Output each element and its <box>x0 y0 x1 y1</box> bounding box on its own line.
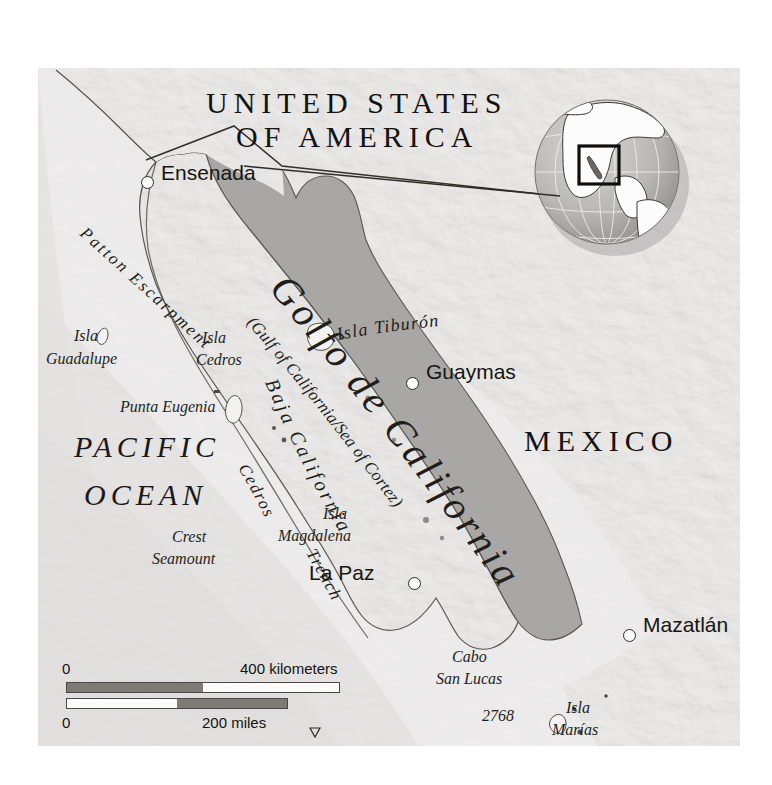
scale-seg-km-dark <box>67 683 203 692</box>
scale-seg-km-light <box>203 683 339 692</box>
scale-seg-mi-light <box>67 699 177 708</box>
city-marker-la-paz[interactable] <box>408 577 421 590</box>
scale-km-zero: 0 <box>62 660 70 677</box>
scale-bar: 0 400 kilometers 0 200 miles <box>62 660 362 738</box>
city-marker-mazatl-n[interactable] <box>623 629 636 642</box>
island-isla-marias <box>550 714 567 733</box>
locator-globe <box>515 80 705 270</box>
city-marker-guaymas[interactable] <box>406 377 419 390</box>
scale-bar-miles <box>66 698 288 709</box>
scale-seg-mi-dark <box>177 699 287 708</box>
scale-mi-label: 200 miles <box>202 714 266 731</box>
islet-mark <box>214 390 220 393</box>
scale-bar-kilometers <box>66 682 340 693</box>
scale-mi-zero: 0 <box>62 714 70 731</box>
map-figure: Patton Escarpment Baja California Golfo … <box>0 0 772 785</box>
scale-km-label: 400 kilometers <box>240 660 338 677</box>
city-marker-ensenada[interactable] <box>141 176 154 189</box>
